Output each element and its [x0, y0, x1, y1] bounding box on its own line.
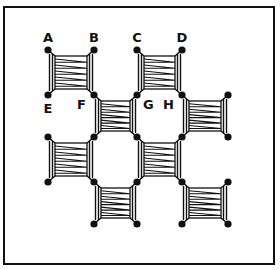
coil-unit: [182, 182, 228, 224]
node-dot: [133, 133, 140, 140]
node-dot: [90, 133, 97, 140]
node-label-d: D: [177, 30, 188, 45]
coil-unit: [48, 137, 94, 182]
coil-unit: [137, 50, 182, 95]
coil-unit: [182, 95, 228, 137]
node-dot: [178, 178, 185, 185]
node-dot: [90, 91, 97, 98]
node-label-f: F: [77, 97, 86, 112]
node-dot: [133, 178, 140, 185]
node-dot: [224, 91, 231, 98]
node-dot: [90, 220, 97, 227]
node-dot: [178, 46, 185, 53]
lattice-diagram: ABCDEFGH: [0, 0, 280, 270]
node-dot: [44, 46, 51, 53]
node-label-h: H: [163, 97, 174, 112]
node-dot: [90, 178, 97, 185]
node-dot: [178, 91, 185, 98]
coil-unit: [48, 50, 94, 95]
node-dot: [178, 220, 185, 227]
node-dot: [224, 133, 231, 140]
node-dot: [133, 91, 140, 98]
node-label-a: A: [43, 30, 53, 45]
node-dot: [44, 133, 51, 140]
node-label-e: E: [44, 101, 53, 116]
coil-unit: [94, 182, 137, 224]
node-dot: [224, 178, 231, 185]
coil-unit: [137, 137, 182, 182]
node-dot: [44, 178, 51, 185]
node-label-c: C: [132, 30, 142, 45]
coil-unit: [94, 95, 137, 137]
node-dot: [133, 46, 140, 53]
node-label-g: G: [143, 97, 154, 112]
node-dot: [133, 220, 140, 227]
node-dot: [224, 220, 231, 227]
node-label-b: B: [89, 30, 99, 45]
node-dot: [90, 46, 97, 53]
node-dot: [178, 133, 185, 140]
node-dot: [44, 91, 51, 98]
